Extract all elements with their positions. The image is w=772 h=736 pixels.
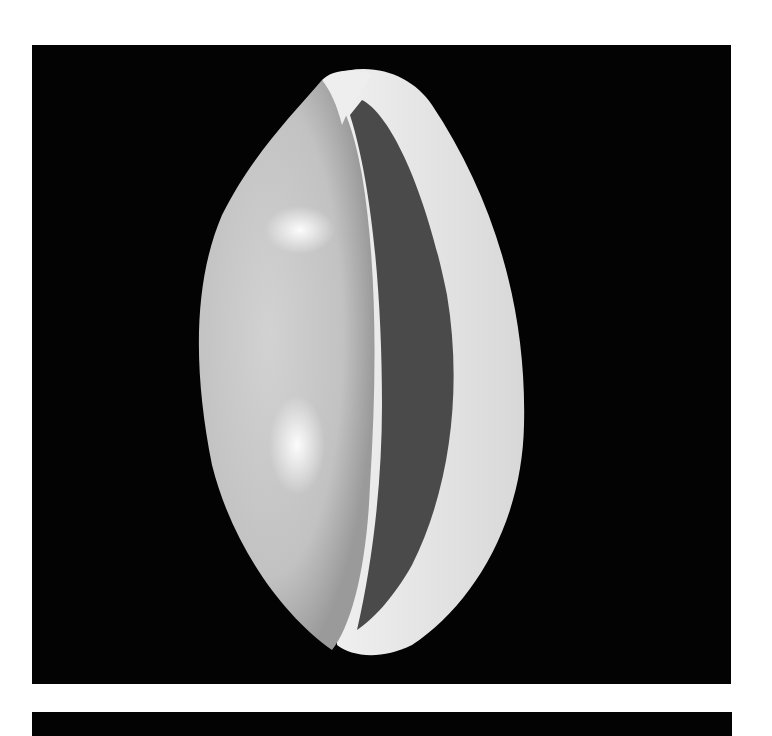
photo-panel: [32, 45, 731, 684]
shell-illustration: [32, 45, 731, 684]
shell-highlight-lower: [269, 395, 325, 495]
photo-panel-lower: [32, 712, 732, 736]
shell-body: [199, 80, 375, 650]
shell-highlight-upper: [265, 206, 335, 254]
